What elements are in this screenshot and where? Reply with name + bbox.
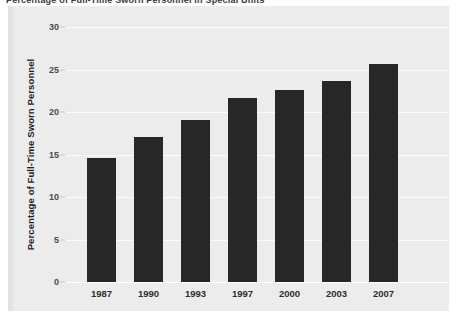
bar-chart-figure: Percentage of Full-Time Sworn Personnel … xyxy=(0,0,457,317)
y-tick-mark-25 xyxy=(60,69,65,70)
plot-area: 051015202530 198719901993199720002003200… xyxy=(66,27,448,282)
y-tick-label-20: 20 xyxy=(49,108,59,117)
y-tick-mark-5 xyxy=(60,239,65,240)
y-tick-label-10: 10 xyxy=(49,193,59,202)
y-axis-title: Percentage of Full-Time Sworn Personnel xyxy=(24,27,38,282)
y-tick-label-15: 15 xyxy=(49,150,59,159)
y-tick-mark-10 xyxy=(60,197,65,198)
chart-panel-left-edge xyxy=(8,6,13,311)
y-tick-mark-20 xyxy=(60,112,65,113)
bar-1990[interactable] xyxy=(134,137,163,282)
y-tick-label-5: 5 xyxy=(54,235,59,244)
y-tick-label-0: 0 xyxy=(54,278,59,287)
x-tick-label-1993: 1993 xyxy=(181,289,210,299)
y-tick-label-30: 30 xyxy=(49,23,59,32)
x-tick-label-2000: 2000 xyxy=(275,289,304,299)
y-tick-label-25: 25 xyxy=(49,65,59,74)
gridline-0 xyxy=(66,282,448,283)
x-tick-label-1997: 1997 xyxy=(228,289,257,299)
bar-2007[interactable] xyxy=(369,64,398,282)
x-tick-label-1987: 1987 xyxy=(87,289,116,299)
cropped-caption-text: Percentage of Full-Time Sworn Personnel … xyxy=(0,0,457,5)
y-tick-mark-30 xyxy=(60,27,65,28)
bar-1997[interactable] xyxy=(228,98,257,282)
cropped-caption-label: Percentage of Full-Time Sworn Personnel … xyxy=(0,0,265,5)
bar-1993[interactable] xyxy=(181,120,210,282)
bar-1987[interactable] xyxy=(87,158,116,282)
x-tick-label-2003: 2003 xyxy=(322,289,351,299)
x-tick-label-2007: 2007 xyxy=(369,289,398,299)
bar-2000[interactable] xyxy=(275,90,304,282)
y-tick-mark-0 xyxy=(60,282,65,283)
bar-2003[interactable] xyxy=(322,81,351,282)
y-tick-mark-15 xyxy=(60,154,65,155)
gridline-30 xyxy=(66,27,448,28)
x-tick-label-1990: 1990 xyxy=(134,289,163,299)
